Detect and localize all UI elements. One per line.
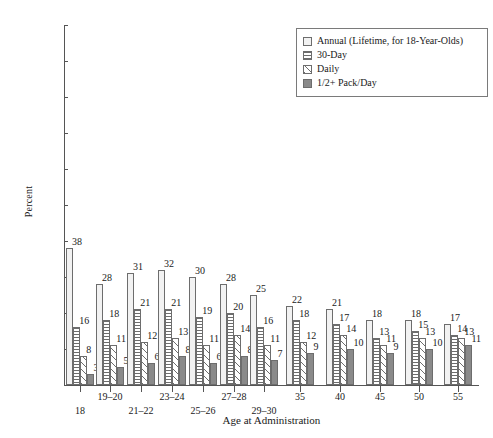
bar <box>179 356 186 385</box>
x-axis-tick <box>141 385 142 392</box>
legend-swatch-daily-icon <box>303 65 312 74</box>
x-axis-tick <box>203 385 204 392</box>
bar-value-label: 18 <box>411 309 421 319</box>
bar <box>158 270 165 385</box>
legend-label: Annual (Lifetime, for 18-Year-Olds) <box>317 36 463 46</box>
legend-label: 30-Day <box>317 50 347 60</box>
x-axis-tick-label: 27–28 <box>211 391 257 402</box>
bar <box>444 324 451 385</box>
bar-value-label: 31 <box>133 262 143 272</box>
bar-value-label: 16 <box>79 316 89 326</box>
bar <box>340 335 347 385</box>
bar <box>257 327 264 385</box>
bar <box>87 374 94 385</box>
bar <box>234 335 241 385</box>
bar <box>66 248 73 385</box>
bar-value-label: 10 <box>353 338 363 348</box>
bar <box>264 345 271 385</box>
bar <box>465 345 472 385</box>
bar <box>412 331 419 385</box>
bar <box>227 313 234 385</box>
bar-value-label: 32 <box>164 259 174 269</box>
x-axis-tick-label: 21–22 <box>118 405 164 416</box>
bar-value-label: 14 <box>346 324 356 334</box>
legend-swatch-30day-icon <box>303 51 312 60</box>
legend: Annual (Lifetime, for 18-Year-Olds) 30-D… <box>296 28 488 97</box>
bar-value-label: 17 <box>450 313 460 323</box>
bar <box>172 338 179 385</box>
bar <box>96 284 103 385</box>
bar <box>73 327 80 385</box>
bar <box>117 367 124 385</box>
legend-item[interactable]: 30-Day <box>303 49 481 61</box>
bar-value-label: 25 <box>256 284 266 294</box>
bar-value-label: 10 <box>432 338 442 348</box>
bar-value-label: 21 <box>140 298 150 308</box>
bar-value-label: 22 <box>292 295 302 305</box>
bar-value-label: 38 <box>72 237 82 247</box>
x-axis-tick-label: 25–26 <box>180 405 226 416</box>
bar-value-label: 7 <box>277 349 282 359</box>
bar-value-label: 19 <box>202 306 212 316</box>
x-axis-tick-label: 23–24 <box>149 391 195 402</box>
bar <box>127 273 134 385</box>
bar <box>419 338 426 385</box>
bar-value-label: 13 <box>425 327 435 337</box>
bar <box>189 277 196 385</box>
bar-value-label: 11 <box>116 334 126 344</box>
bar <box>141 342 148 385</box>
bar <box>373 338 380 385</box>
legend-item[interactable]: Annual (Lifetime, for 18-Year-Olds) <box>303 35 481 47</box>
bar-value-label: 30 <box>195 266 205 276</box>
bar-value-label: 20 <box>233 302 243 312</box>
legend-swatch-halfpack-icon <box>303 79 312 88</box>
bar-value-label: 11 <box>270 334 280 344</box>
bar-value-label: 8 <box>86 345 91 355</box>
bar-value-label: 14 <box>240 324 250 334</box>
legend-swatch-annual-icon <box>303 37 312 46</box>
x-axis-tick <box>80 385 81 392</box>
smoking-prevalence-bar-chart: 1009080706050403020100 Percent Age at Ad… <box>0 0 493 438</box>
bar-value-label: 9 <box>313 342 318 352</box>
bar-value-label: 18 <box>372 309 382 319</box>
bar-value-label: 18 <box>299 309 309 319</box>
bar-value-label: 11 <box>209 334 219 344</box>
bar <box>286 306 293 385</box>
x-axis-tick-label: 19–20 <box>87 391 133 402</box>
x-axis-tick-label: 18 <box>57 405 103 416</box>
bar-value-label: 11 <box>471 334 481 344</box>
bar <box>250 295 257 385</box>
bar <box>110 345 117 385</box>
bar <box>134 309 141 385</box>
x-axis-tick-label: 29–30 <box>241 405 287 416</box>
bar <box>458 338 465 385</box>
bar <box>165 309 172 385</box>
legend-label: Daily <box>317 64 339 74</box>
bar <box>333 324 340 385</box>
legend-label: 1/2+ Pack/Day <box>317 78 377 88</box>
legend-item[interactable]: 1/2+ Pack/Day <box>303 77 481 89</box>
bar <box>220 284 227 385</box>
x-axis-tick-label: 55 <box>435 391 481 402</box>
x-axis-tick <box>264 385 265 392</box>
bar-value-label: 12 <box>306 331 316 341</box>
bar-value-label: 16 <box>263 316 273 326</box>
bar <box>451 335 458 385</box>
bar-value-label: 17 <box>339 313 349 323</box>
bar <box>326 309 333 385</box>
bar <box>293 320 300 385</box>
bar <box>203 345 210 385</box>
bar <box>271 360 278 385</box>
bar <box>196 317 203 385</box>
bar <box>307 353 314 385</box>
legend-item[interactable]: Daily <box>303 63 481 75</box>
bar <box>210 363 217 385</box>
bar <box>366 320 373 385</box>
bar <box>387 353 394 385</box>
bar-value-label: 21 <box>332 298 342 308</box>
bar <box>80 356 87 385</box>
bar-value-label: 12 <box>147 331 157 341</box>
bar <box>405 320 412 385</box>
bar <box>103 320 110 385</box>
bar <box>426 349 433 385</box>
